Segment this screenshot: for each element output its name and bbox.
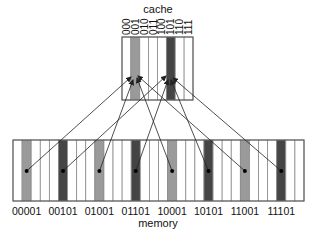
memory-block-dot bbox=[97, 169, 101, 173]
memory-block-dot bbox=[243, 169, 247, 173]
memory-title: memory bbox=[138, 217, 178, 229]
memory-address-label: 11101 bbox=[267, 205, 295, 217]
memory-block-dot bbox=[61, 169, 65, 173]
memory-address-label: 01001 bbox=[85, 205, 114, 217]
memory-address-label: 10101 bbox=[194, 205, 223, 217]
memory-cell bbox=[222, 140, 231, 201]
memory-cell bbox=[68, 140, 77, 201]
cache-slot-100 bbox=[158, 37, 167, 100]
memory-cell bbox=[295, 140, 304, 201]
memory-cell bbox=[286, 140, 295, 201]
memory-block-dot bbox=[170, 169, 174, 173]
memory-cell bbox=[104, 140, 113, 201]
cache-slot-010 bbox=[140, 37, 149, 100]
memory-address-label: 01101 bbox=[122, 205, 151, 217]
memory-address-label: 00001 bbox=[12, 205, 41, 217]
cache-block: 000001010011100101110111 bbox=[121, 18, 194, 100]
memory-cell bbox=[186, 140, 195, 201]
memory-cell bbox=[159, 140, 168, 201]
cache-title: cache bbox=[143, 3, 172, 15]
memory-cell bbox=[177, 140, 186, 201]
memory-block-dot bbox=[279, 169, 283, 173]
cache-memory-mapping-diagram: 000001010011100101110111 000010010101001… bbox=[0, 0, 314, 241]
memory-cell bbox=[259, 140, 268, 201]
memory-cell bbox=[249, 140, 258, 201]
cache-slot-111 bbox=[184, 37, 193, 100]
memory-cell bbox=[149, 140, 158, 201]
memory-address-label: 11001 bbox=[231, 205, 260, 217]
memory-block: 0000100101010010110110001101011100111101 bbox=[12, 140, 304, 217]
memory-cell bbox=[31, 140, 40, 201]
memory-block-dot bbox=[207, 169, 211, 173]
memory-address-label: 10001 bbox=[158, 205, 187, 217]
cache-slot-000 bbox=[122, 37, 131, 100]
cache-slot-110 bbox=[175, 37, 184, 100]
memory-cell bbox=[113, 140, 122, 201]
cache-slot-101 bbox=[166, 37, 175, 100]
memory-cell bbox=[13, 140, 22, 201]
cache-slot-001 bbox=[131, 37, 140, 100]
memory-cell bbox=[268, 140, 277, 201]
cache-slot-label: 111 bbox=[183, 19, 194, 35]
memory-cell bbox=[231, 140, 240, 201]
memory-cell bbox=[77, 140, 86, 201]
memory-block-dot bbox=[25, 169, 29, 173]
memory-address-label: 00101 bbox=[48, 205, 77, 217]
memory-cell bbox=[122, 140, 131, 201]
memory-block-dot bbox=[134, 169, 138, 173]
memory-cell bbox=[40, 140, 49, 201]
memory-cell bbox=[140, 140, 149, 201]
